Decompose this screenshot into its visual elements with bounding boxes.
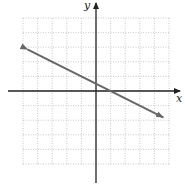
y-axis-label: y [84,0,90,12]
x-axis-label: x [176,92,182,105]
plotted-line [27,49,163,117]
coordinate-plane [0,0,185,186]
